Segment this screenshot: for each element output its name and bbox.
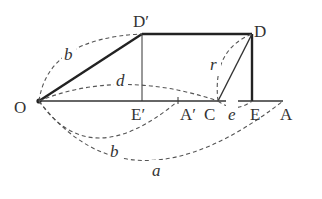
var-e: e <box>228 105 236 124</box>
label-D-prime: D′ <box>133 12 149 31</box>
segment-CD <box>218 34 252 101</box>
geometry-diagram: O D′ D E′ A′ C E A b d r e b a <box>0 0 322 199</box>
label-E: E <box>250 105 260 124</box>
var-b-lower: b <box>110 142 119 161</box>
label-D: D <box>254 22 266 41</box>
var-b-upper: b <box>64 45 73 64</box>
label-A-prime: A′ <box>180 105 196 124</box>
var-a: a <box>152 161 161 180</box>
label-E-prime: E′ <box>131 105 145 124</box>
arc-b-lower <box>39 101 178 138</box>
label-O: O <box>14 98 26 117</box>
var-d: d <box>116 71 125 90</box>
label-C: C <box>204 105 215 124</box>
var-r: r <box>210 55 217 74</box>
arc-a <box>39 101 283 161</box>
label-A: A <box>280 105 293 124</box>
segment-OD-prime <box>39 34 142 101</box>
arc-d <box>39 85 218 102</box>
